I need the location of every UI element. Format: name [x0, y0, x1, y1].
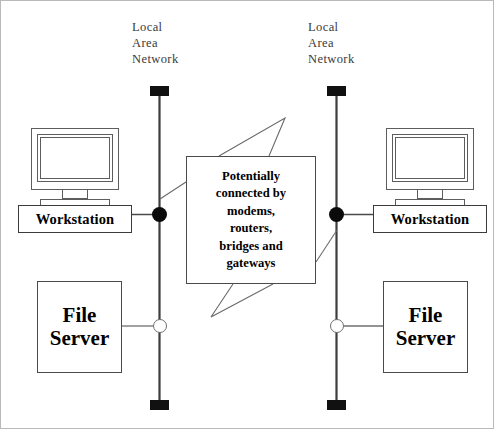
workstation-label-right: Workstation [391, 211, 469, 228]
monitor-icon [31, 128, 119, 190]
lan-label-right: Local Area Network [308, 19, 355, 67]
interconnect-callout: Potentially connected by modems, routers… [186, 156, 316, 284]
bus-terminator-bottom-right [327, 400, 346, 410]
bus-terminator-bottom-left [150, 400, 169, 410]
monitor-neck [417, 190, 443, 199]
interconnect-callout-text: Potentially connected by modems, routers… [210, 168, 292, 273]
monitor-bezel [37, 134, 113, 182]
node-fileserver-left [153, 319, 167, 333]
monitor-screen [40, 137, 110, 179]
network-diagram: Local Area Network Local Area Network Wo… [0, 0, 494, 429]
monitor-neck [62, 190, 88, 199]
fileserver-label-right-line2: Server [396, 327, 455, 350]
callout-leader-top-spike [219, 118, 285, 156]
fileserver-label-left-line2: Server [50, 327, 109, 350]
fileserver-left: File Server [37, 281, 122, 373]
monitor-icon [386, 128, 474, 190]
workstation-left: Workstation [18, 128, 134, 233]
callout-leader-bottom-spike [211, 284, 273, 317]
workstation-label-left: Workstation [36, 211, 114, 228]
fileserver-label-right-line1: File [409, 304, 443, 327]
callout-leader-left [160, 182, 186, 199]
workstation-box-right: Workstation [373, 205, 487, 233]
fileserver-label-left-line1: File [63, 304, 97, 327]
node-fileserver-right [330, 319, 344, 333]
lan-label-left: Local Area Network [132, 19, 179, 67]
node-workstation-left [152, 207, 167, 222]
monitor-screen [395, 137, 465, 179]
bus-terminator-top-left [150, 86, 169, 96]
workstation-right: Workstation [373, 128, 489, 233]
monitor-bezel [392, 134, 468, 182]
bus-terminator-top-right [327, 86, 346, 96]
fileserver-right: File Server [383, 281, 468, 373]
workstation-box-left: Workstation [18, 205, 132, 233]
callout-leader-right [316, 230, 337, 262]
node-workstation-right [329, 207, 344, 222]
